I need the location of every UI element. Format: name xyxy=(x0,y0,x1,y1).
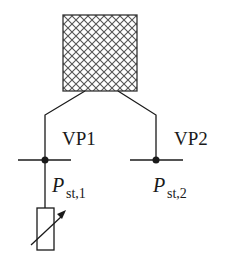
variable-resistor-icon xyxy=(31,208,66,250)
label-pst1-subscript: st,1 xyxy=(66,186,86,201)
label-pst2-main: P xyxy=(152,174,165,196)
label-pst2-subscript: st,2 xyxy=(167,186,187,201)
right-branch-line xyxy=(118,91,156,158)
label-pst1: P xyxy=(51,174,64,196)
label-vp2: VP2 xyxy=(174,128,208,149)
node-dot-vp1 xyxy=(42,157,49,164)
label-pst1-main: P xyxy=(51,174,64,196)
label-vp1: VP1 xyxy=(62,128,96,149)
label-pst2: P xyxy=(152,174,165,196)
node-dot-vp2 xyxy=(153,157,160,164)
diagram-canvas: VP1 VP2 P st,1 P st,2 xyxy=(0,0,225,265)
hatched-source-box xyxy=(63,15,137,91)
